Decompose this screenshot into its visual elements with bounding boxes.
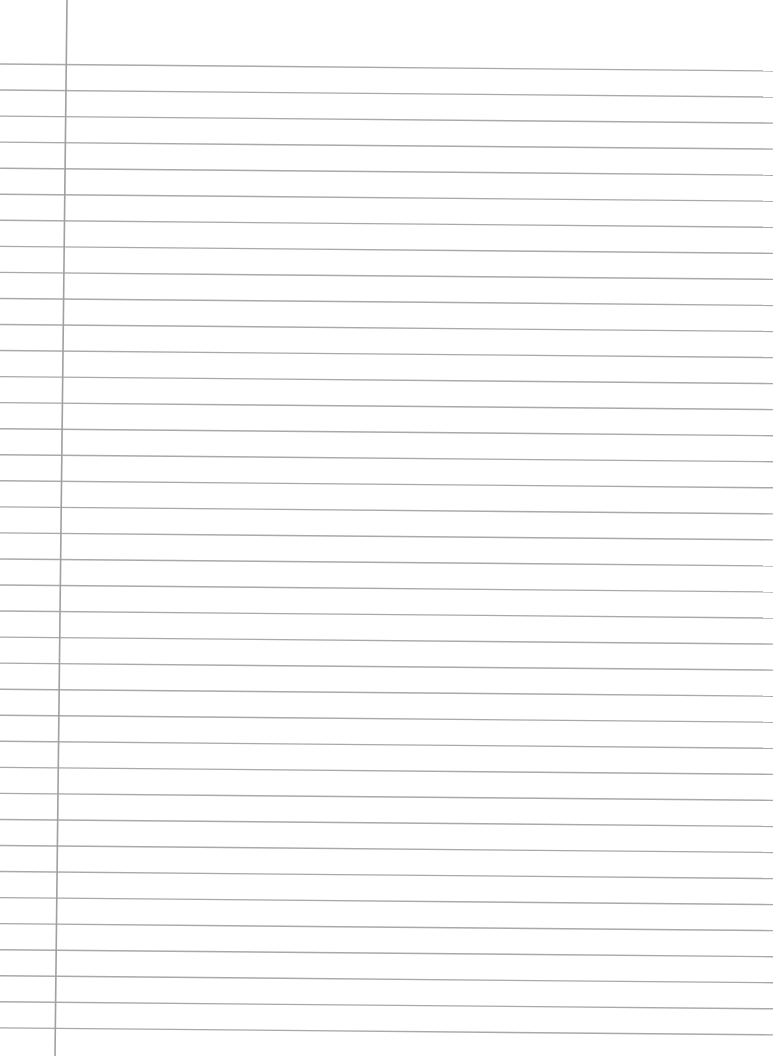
- ruled-line: [0, 351, 773, 358]
- ruled-line: [0, 429, 773, 436]
- ruled-line: [0, 689, 773, 696]
- ruled-line: [0, 950, 773, 957]
- ruled-line: [0, 559, 773, 566]
- ruled-line: [0, 403, 773, 410]
- ruled-line: [0, 325, 773, 332]
- ruled-line: [0, 507, 773, 514]
- ruled-line: [0, 637, 773, 644]
- ruled-line: [0, 533, 773, 540]
- ruled-line: [0, 924, 773, 931]
- ruled-line: [0, 741, 773, 748]
- ruled-line: [0, 872, 773, 879]
- ruled-line: [0, 846, 773, 853]
- ruled-line: [0, 64, 773, 71]
- ruled-line: [0, 819, 773, 826]
- ruled-line: [0, 220, 773, 227]
- ruled-line: [0, 377, 773, 384]
- ruled-line: [0, 142, 773, 149]
- ruled-line: [0, 793, 773, 800]
- ruled-line: [0, 585, 773, 592]
- ruled-line: [0, 481, 773, 488]
- ruled-line: [0, 455, 773, 462]
- ruled-line: [0, 976, 773, 983]
- ruled-line: [0, 767, 773, 774]
- ruled-line: [0, 272, 773, 279]
- ruled-line: [0, 611, 773, 618]
- ruled-line: [0, 246, 773, 253]
- ruled-lines: [0, 0, 776, 1059]
- ruled-line: [0, 90, 773, 97]
- ruled-line: [0, 663, 773, 670]
- ruled-line: [0, 1028, 773, 1035]
- ruled-line: [0, 194, 773, 201]
- ruled-line: [0, 168, 773, 175]
- ruled-paper-page: [0, 0, 776, 1059]
- ruled-line: [0, 1002, 773, 1009]
- ruled-line: [0, 298, 773, 305]
- ruled-line: [0, 116, 773, 123]
- ruled-line: [0, 898, 773, 905]
- ruled-line: [0, 715, 773, 722]
